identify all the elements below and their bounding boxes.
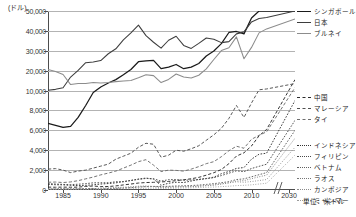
legend-item-label: ラオス <box>314 175 335 183</box>
series-line-12 <box>48 155 295 189</box>
y-axis-tick-label: 6,000 <box>0 127 46 134</box>
legend-item[interactable]: シンガポール <box>297 6 356 17</box>
legend-color-swatch-icon <box>297 8 311 16</box>
y-axis-tick-label: 20,000 <box>0 67 46 74</box>
legend-color-swatch-icon <box>297 186 311 194</box>
legend-item-label: カンボジア <box>314 186 349 194</box>
x-axis-tick-label: 2005 <box>206 192 222 199</box>
legend-color-swatch-icon <box>297 142 311 150</box>
series-line-10 <box>48 138 295 189</box>
legend-item[interactable]: フィリピン <box>297 151 356 162</box>
legend-color-swatch-icon <box>297 94 311 102</box>
legend-color-swatch-icon <box>297 153 311 161</box>
series-line-7 <box>48 101 295 186</box>
series-line-5 <box>48 84 295 173</box>
plot-area <box>48 11 295 190</box>
x-axis-tick-label: 2010 <box>244 192 260 199</box>
legend-color-swatch-icon <box>297 164 311 172</box>
y-axis-tick-mark <box>44 190 48 191</box>
legend-item-label: フィリピン <box>314 153 349 161</box>
series-line-4 <box>48 80 295 188</box>
y-axis-tick-label: 40,000 <box>0 27 46 34</box>
legend-item-label: ベトナム <box>314 164 342 172</box>
legend-color-swatch-icon <box>297 175 311 183</box>
series-line-6 <box>48 88 295 183</box>
x-axis-tick-label: 1985 <box>55 192 71 199</box>
legend-color-swatch-icon <box>297 30 311 38</box>
legend-group-high-income: シンガポール日本ブルネイ <box>297 6 356 39</box>
legend-item[interactable]: インドネシア <box>297 140 356 151</box>
legend-color-swatch-icon <box>297 105 311 113</box>
y-axis-tick-label: 30,000 <box>0 47 46 54</box>
legend-item[interactable]: 中国 <box>297 92 356 103</box>
y-axis-tick-label: 2,000 <box>0 167 46 174</box>
legend-item-label: ブルネイ <box>314 30 342 38</box>
legend-item[interactable]: ラオス <box>297 173 356 184</box>
y-axis-tick-label: 8,000 <box>0 107 46 114</box>
legend-item[interactable]: 日本 <box>297 17 356 28</box>
legend-color-swatch-icon <box>297 116 311 124</box>
legend-group-middle-income: 中国マレーシアタイ <box>297 92 356 125</box>
legend-item-label: タイ <box>314 116 328 124</box>
legend-item-label: 日本 <box>314 19 328 27</box>
y-axis-tick-label: 10,000 <box>0 87 46 94</box>
x-axis-tick-label: 1995 <box>131 192 147 199</box>
legend-item[interactable]: マレーシア <box>297 103 356 114</box>
legend-color-swatch-icon <box>297 19 311 27</box>
legend-item[interactable]: カンボジア <box>297 184 356 195</box>
x-axis-tick-label: 1990 <box>93 192 109 199</box>
gdp-per-capita-line-chart: (ドル) 02,0004,0006,0008,00010,00020,00030… <box>0 0 356 217</box>
series-line-2 <box>48 11 295 90</box>
legend-unit-note: 単位：米ドル <box>303 196 345 206</box>
y-axis-tick-label: 4,000 <box>0 147 46 154</box>
legend-item[interactable]: ブルネイ <box>297 28 356 39</box>
series-line-11 <box>48 147 295 189</box>
legend-item-label: マレーシア <box>314 105 349 113</box>
y-axis-tick-label: 50,000 <box>0 8 46 15</box>
legend-item-label: インドネシア <box>314 142 356 150</box>
series-line-9 <box>48 130 295 189</box>
legend-item-label: シンガポール <box>314 8 356 16</box>
series-line-1 <box>48 11 295 127</box>
x-axis-tick-label: 2000 <box>168 192 184 199</box>
legend-item[interactable]: タイ <box>297 114 356 125</box>
legend-item-label: 中国 <box>314 94 328 102</box>
series-line-3 <box>48 19 295 85</box>
legend-item[interactable]: ベトナム <box>297 162 356 173</box>
y-axis-tick-label: 0 <box>0 187 46 194</box>
legend: シンガポール日本ブルネイ 中国マレーシアタイ インドネシアフィリピンベトナムラオ… <box>297 0 356 217</box>
